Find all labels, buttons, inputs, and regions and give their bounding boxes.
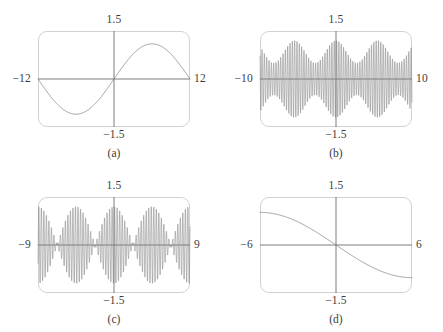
x-max-label-c: 9 bbox=[194, 239, 200, 251]
y-min-label-d: −1.5 bbox=[325, 295, 347, 307]
panel-caption-b: (b) bbox=[329, 147, 342, 159]
x-min-label-b: −10 bbox=[234, 73, 253, 85]
y-min-label-a: −1.5 bbox=[103, 129, 125, 141]
chart-panel-a: 1.5 −1.5 −12 12 (a) bbox=[0, 0, 221, 166]
plot-canvas-c bbox=[38, 197, 190, 293]
plot-canvas-b bbox=[260, 31, 412, 127]
x-min-label-d: −6 bbox=[240, 239, 253, 251]
x-max-label-d: 6 bbox=[416, 239, 422, 251]
plot-canvas-d bbox=[260, 197, 412, 293]
y-max-label-b: 1.5 bbox=[329, 14, 344, 26]
panel-caption-c: (c) bbox=[108, 313, 121, 325]
chart-panel-d: 1.5 −1.5 −6 6 (d) bbox=[222, 166, 443, 332]
chart-panel-c: 1.5 −1.5 −9 9 (c) bbox=[0, 166, 221, 332]
figure-panel-grid: 1.5 −1.5 −12 12 (a) 1.5 −1.5 −10 10 (b) … bbox=[0, 0, 443, 332]
x-min-label-c: −9 bbox=[18, 239, 31, 251]
x-min-label-a: −12 bbox=[12, 73, 31, 85]
plot-canvas-a bbox=[38, 31, 190, 127]
y-max-label-c: 1.5 bbox=[107, 180, 122, 192]
y-max-label-d: 1.5 bbox=[329, 180, 344, 192]
panel-caption-a: (a) bbox=[108, 147, 121, 159]
x-max-label-b: 10 bbox=[416, 73, 428, 85]
y-min-label-b: −1.5 bbox=[325, 129, 347, 141]
x-max-label-a: 12 bbox=[194, 73, 206, 85]
y-max-label-a: 1.5 bbox=[107, 14, 122, 26]
panel-caption-d: (d) bbox=[329, 313, 342, 325]
y-min-label-c: −1.5 bbox=[103, 295, 125, 307]
chart-panel-b: 1.5 −1.5 −10 10 (b) bbox=[222, 0, 443, 166]
